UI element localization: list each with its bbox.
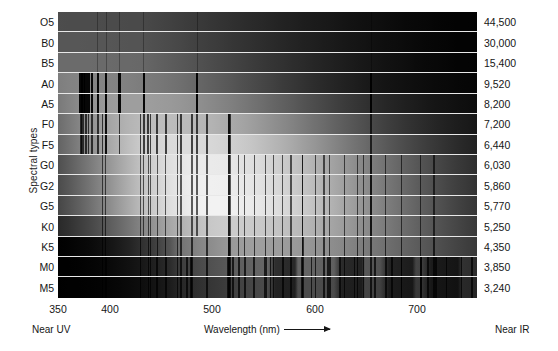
absorption-line bbox=[265, 196, 266, 215]
absorption-lines bbox=[58, 175, 477, 194]
absorption-line bbox=[371, 12, 372, 31]
absorption-line bbox=[357, 155, 358, 174]
absorption-line bbox=[302, 175, 303, 194]
absorption-line bbox=[97, 114, 99, 133]
absorption-line bbox=[244, 277, 246, 297]
absorption-line bbox=[177, 114, 179, 133]
absorption-line bbox=[191, 135, 193, 154]
absorption-line bbox=[344, 237, 345, 256]
absorption-line bbox=[102, 135, 104, 154]
absorption-line bbox=[190, 257, 192, 276]
absorption-line bbox=[102, 277, 104, 297]
absorption-line bbox=[315, 155, 316, 174]
surface-temperature-label-m0: 3,850 bbox=[484, 261, 544, 273]
absorption-line bbox=[165, 135, 167, 154]
right-arrow-icon bbox=[284, 329, 330, 330]
spectrum-row bbox=[58, 73, 477, 93]
absorption-line bbox=[315, 216, 316, 235]
absorption-line bbox=[83, 114, 85, 133]
absorption-line bbox=[88, 135, 90, 154]
absorption-line bbox=[140, 175, 141, 194]
absorption-line bbox=[370, 73, 372, 92]
absorption-line bbox=[265, 237, 266, 256]
absorption-line bbox=[165, 237, 166, 256]
spectrum-row bbox=[58, 114, 477, 134]
absorption-line bbox=[87, 73, 89, 92]
absorption-line bbox=[238, 196, 239, 215]
spectral-classification-figure: Spectral types Surface temperature (K) O… bbox=[0, 0, 558, 351]
spectrum-row bbox=[58, 237, 477, 257]
x-tick-600: 600 bbox=[295, 303, 335, 315]
absorption-line bbox=[385, 216, 386, 235]
absorption-line bbox=[244, 237, 245, 256]
absorption-line bbox=[371, 53, 372, 72]
absorption-line bbox=[290, 237, 291, 256]
absorption-line bbox=[471, 257, 473, 276]
absorption-line bbox=[323, 155, 324, 174]
absorption-line bbox=[143, 32, 144, 51]
absorption-line bbox=[180, 216, 181, 235]
absorption-line bbox=[357, 237, 358, 256]
absorption-line bbox=[401, 196, 402, 215]
absorption-line bbox=[374, 277, 376, 297]
surface-temperature-label-k0: 5,250 bbox=[484, 221, 544, 233]
absorption-line bbox=[102, 175, 103, 194]
absorption-line bbox=[206, 135, 208, 154]
absorption-line bbox=[254, 196, 255, 215]
absorption-line bbox=[196, 175, 197, 194]
absorption-line bbox=[156, 114, 158, 133]
absorption-line bbox=[323, 277, 325, 297]
absorption-line bbox=[196, 216, 197, 235]
absorption-line bbox=[363, 196, 364, 215]
spectrum-row bbox=[58, 53, 477, 73]
absorption-line bbox=[119, 32, 120, 51]
spectrum-row bbox=[58, 196, 477, 216]
absorption-line bbox=[143, 53, 144, 72]
absorption-lines bbox=[58, 196, 477, 215]
absorption-line bbox=[329, 155, 330, 174]
absorption-line bbox=[311, 277, 313, 297]
absorption-line bbox=[140, 155, 141, 174]
absorption-line bbox=[80, 114, 82, 133]
absorption-line bbox=[206, 155, 207, 174]
spectral-type-label-b5: B5 bbox=[14, 57, 54, 69]
absorption-line bbox=[106, 12, 107, 31]
absorption-line bbox=[97, 12, 98, 31]
surface-temperature-label-o5: 44,500 bbox=[484, 16, 544, 28]
absorption-line bbox=[140, 277, 142, 297]
absorption-line bbox=[401, 216, 402, 235]
absorption-line bbox=[150, 196, 151, 215]
absorption-line bbox=[156, 135, 158, 154]
absorption-line bbox=[83, 135, 85, 154]
absorption-line bbox=[282, 237, 283, 256]
surface-temperature-label-a0: 9,520 bbox=[484, 78, 544, 90]
absorption-line bbox=[165, 114, 167, 133]
absorption-line bbox=[102, 114, 104, 133]
x-axis-note-near-ir: Near IR bbox=[495, 324, 529, 335]
absorption-line bbox=[119, 114, 121, 133]
absorption-line bbox=[165, 277, 167, 297]
absorption-line bbox=[323, 216, 324, 235]
absorption-line bbox=[150, 175, 151, 194]
spectrum-row bbox=[58, 155, 477, 175]
absorption-line bbox=[265, 216, 266, 235]
absorption-line bbox=[315, 277, 317, 297]
absorption-line bbox=[344, 196, 345, 215]
absorption-line bbox=[143, 175, 144, 194]
absorption-line bbox=[156, 257, 158, 276]
spectral-type-label-k5: K5 bbox=[14, 241, 54, 253]
absorption-line bbox=[244, 175, 245, 194]
absorption-line bbox=[191, 114, 193, 133]
absorption-line bbox=[401, 175, 402, 194]
absorption-line bbox=[105, 94, 107, 113]
absorption-line bbox=[370, 277, 372, 297]
absorption-line bbox=[88, 114, 90, 133]
absorption-line bbox=[91, 73, 93, 92]
absorption-line bbox=[196, 114, 198, 133]
absorption-line bbox=[229, 257, 231, 276]
absorption-line bbox=[329, 237, 330, 256]
absorption-line bbox=[105, 277, 107, 297]
absorption-line bbox=[186, 277, 188, 297]
absorption-line bbox=[91, 135, 93, 154]
surface-temperature-label-a5: 8,200 bbox=[484, 98, 544, 110]
